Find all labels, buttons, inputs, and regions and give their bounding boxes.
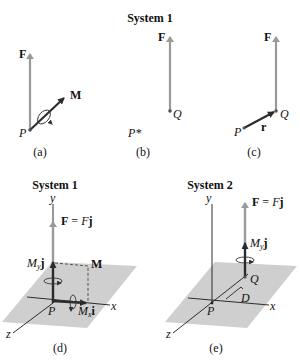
point-label: P — [47, 304, 56, 318]
my-label: Myj — [249, 236, 268, 251]
force-label: F = Fj — [252, 195, 283, 209]
caption-d: (d) — [53, 341, 67, 355]
point-label: P* — [127, 126, 141, 140]
force-label: F — [264, 30, 271, 44]
panel-e: System 2 y x z F = Fj Myj Q D P (e) — [165, 178, 297, 355]
z-axis-label: z — [5, 327, 11, 341]
caption-a: (a) — [33, 145, 46, 159]
top-title: System 1 — [127, 11, 173, 25]
panel-a: F M P (a) — [18, 47, 81, 159]
moment-label: M — [91, 257, 102, 271]
panel-e-title: System 2 — [187, 178, 233, 192]
force-label: F = Fj — [61, 214, 92, 228]
moment-arrow — [30, 98, 64, 130]
panel-d: System 1 y x z F = Fj Myj M Mxi P (d) — [2, 178, 137, 355]
z-axis-label: z — [165, 327, 171, 341]
statics-diagram: System 1 F M P (a) P* F Q (b) F Q P r (c… — [0, 0, 300, 362]
p-label: P — [233, 125, 242, 139]
x-axis-label: x — [269, 299, 276, 313]
position-vector-arrow — [244, 112, 274, 128]
xz-plane — [2, 262, 137, 328]
panel-c: F Q P r (c) — [233, 30, 289, 159]
q-label: Q — [173, 107, 182, 121]
point-label: P — [18, 126, 27, 140]
y-axis-label: y — [49, 191, 56, 205]
moment-label: M — [70, 88, 81, 102]
caption-e: (e) — [209, 341, 222, 355]
force-label: F — [19, 47, 26, 61]
y-axis-label: y — [205, 191, 212, 205]
force-label: F — [158, 30, 165, 44]
mx-label: Mxi — [77, 304, 96, 319]
my-label: Myj — [26, 256, 45, 271]
point-label: P — [206, 304, 215, 318]
x-axis-label: x — [110, 299, 117, 313]
panel-d-title: System 1 — [32, 178, 78, 192]
panel-b: P* F Q (b) — [127, 30, 182, 159]
caption-c: (c) — [247, 145, 260, 159]
q-label: Q — [250, 272, 259, 286]
caption-b: (b) — [136, 145, 150, 159]
r-label: r — [261, 120, 267, 134]
distance-label: D — [240, 291, 250, 305]
q-label: Q — [280, 107, 289, 121]
